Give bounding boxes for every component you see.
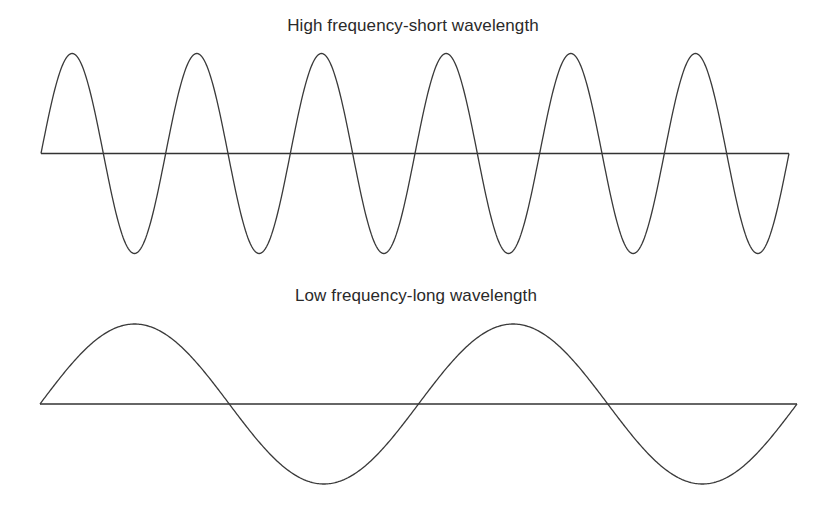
low-frequency-panel — [40, 324, 797, 484]
wave-diagram — [0, 0, 830, 510]
high-frequency-panel — [41, 54, 789, 254]
